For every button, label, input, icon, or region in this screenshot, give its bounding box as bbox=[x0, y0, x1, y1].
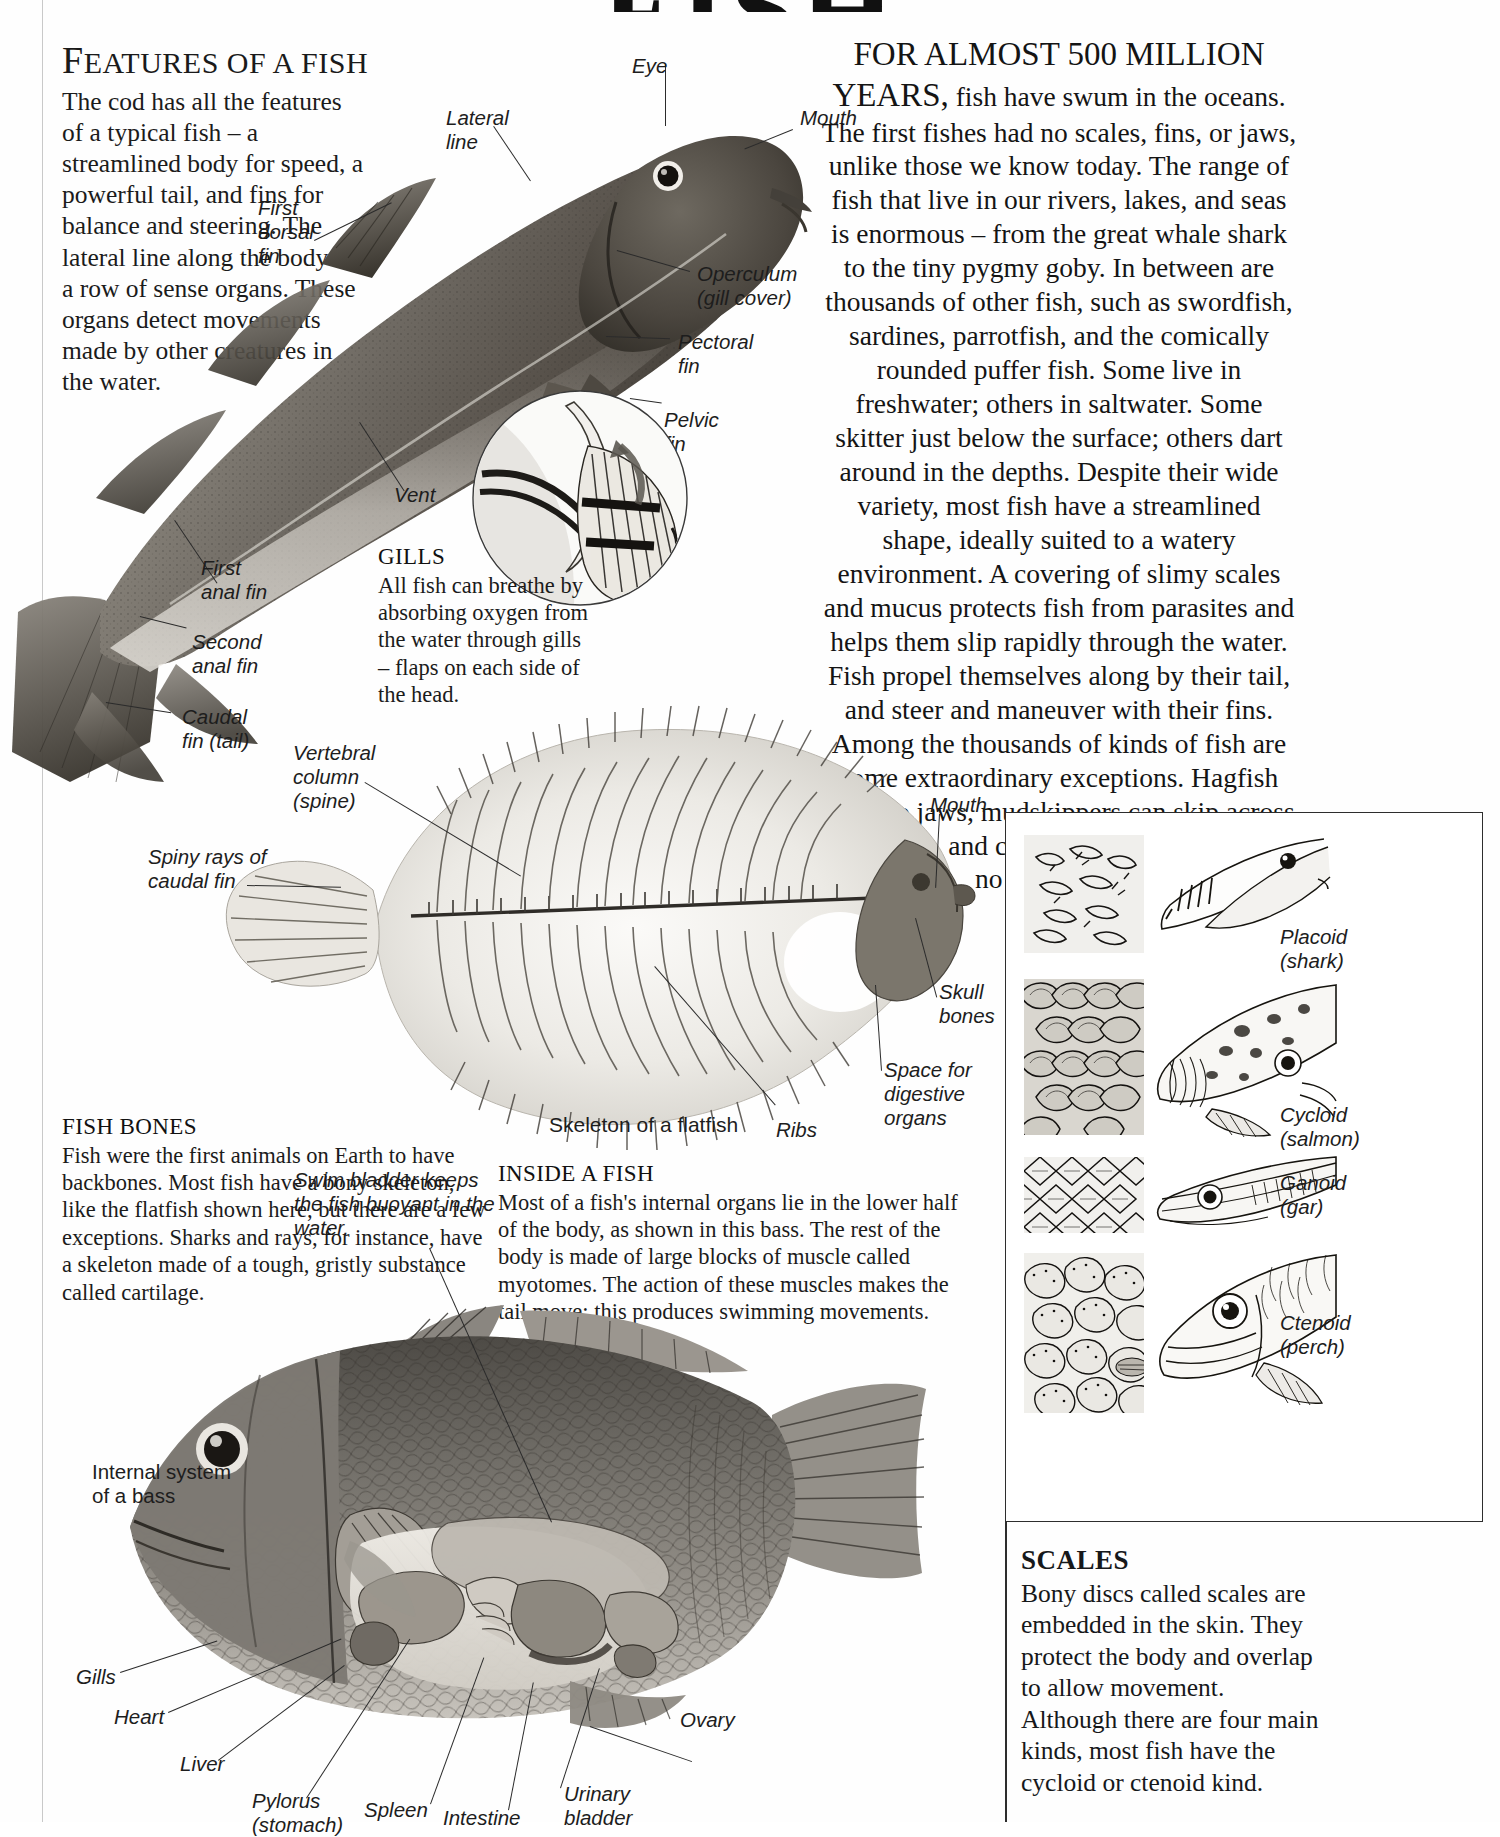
label-bass-spleen: Spleen bbox=[364, 1798, 428, 1822]
label-placoid: Placoid (shark) bbox=[1280, 925, 1347, 973]
label-bass-liver: Liver bbox=[180, 1752, 224, 1776]
cycloid-scale-swatch bbox=[1024, 979, 1144, 1135]
label-flatfish-mouth: Mouth bbox=[930, 793, 987, 817]
scales-body: Bony discs called scales are embedded in… bbox=[1021, 1578, 1321, 1798]
bass-anatomy-illustration bbox=[100, 1255, 930, 1815]
label-bass-urinary: Urinary bladder bbox=[564, 1782, 632, 1830]
ctenoid-scale-swatch bbox=[1024, 1253, 1144, 1413]
scales-panel: Placoid (shark) bbox=[1005, 812, 1483, 1522]
label-operculum: Operculum (gill cover) bbox=[697, 262, 797, 310]
swim-bladder-note: Swim bladder keeps the fish buoyant in t… bbox=[294, 1168, 495, 1241]
label-bass-pylorus: Pylorus (stomach) bbox=[252, 1789, 343, 1837]
ganoid-scale-swatch bbox=[1024, 1157, 1144, 1233]
label-vertebral-column: Vertebral column (spine) bbox=[293, 741, 375, 814]
scales-text-section: SCALES Bony discs called scales are embe… bbox=[1021, 1545, 1321, 1798]
gills-body: All fish can breathe by absorbing oxygen… bbox=[378, 572, 593, 709]
label-vent: Vent bbox=[394, 483, 435, 507]
label-cycloid: Cycloid (salmon) bbox=[1280, 1103, 1360, 1151]
label-bass-heart: Heart bbox=[114, 1705, 164, 1729]
label-spiny-rays: Spiny rays of caudal fin bbox=[148, 845, 267, 893]
label-bass-intestine: Intestine bbox=[443, 1806, 521, 1830]
label-skull-bones: Skull bones bbox=[939, 980, 995, 1028]
label-lateral-line: Lateral line bbox=[446, 106, 509, 154]
label-eye: Eye bbox=[632, 54, 667, 78]
placoid-scale-swatch bbox=[1024, 835, 1144, 953]
label-bass-ovary: Ovary bbox=[680, 1708, 735, 1732]
flatfish-caption: Skeleton of a flatfish bbox=[549, 1113, 738, 1138]
label-bass-gills: Gills bbox=[76, 1665, 116, 1689]
inside-a-fish-heading: INSIDE A FISH bbox=[498, 1160, 960, 1189]
label-second-anal-fin: Second anal fin bbox=[192, 630, 262, 678]
gills-section: GILLS All fish can breathe by absorbing … bbox=[378, 543, 593, 709]
label-ctenoid: Ctenoid (perch) bbox=[1280, 1311, 1351, 1359]
page-title: FISH bbox=[0, 0, 1500, 12]
label-space-digestive: Space for digestive organs bbox=[884, 1058, 972, 1131]
bass-caption: Internal system of a bass bbox=[92, 1460, 231, 1508]
label-ribs: Ribs bbox=[776, 1118, 817, 1142]
label-pectoral-fin: Pectoral fin bbox=[678, 330, 753, 378]
gills-heading: GILLS bbox=[378, 543, 593, 572]
fish-bones-heading: FISH BONES bbox=[62, 1113, 492, 1142]
label-ganoid: Ganoid (gar) bbox=[1280, 1171, 1346, 1219]
label-first-anal-fin: First anal fin bbox=[201, 556, 267, 604]
scales-heading: SCALES bbox=[1021, 1545, 1321, 1576]
label-first-dorsal-fin: First dorsal fin bbox=[258, 196, 314, 269]
